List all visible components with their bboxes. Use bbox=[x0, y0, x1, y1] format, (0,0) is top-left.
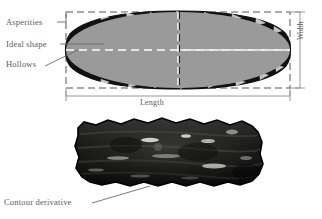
leader-line-contour-derivative bbox=[92, 186, 150, 203]
leader-line-asperities bbox=[57, 14, 66, 22]
label-ideal-shape: Ideal shape bbox=[6, 40, 47, 49]
figure-root: Asperities Ideal shape Hollows Length Wi… bbox=[0, 0, 322, 219]
grain-photograph bbox=[70, 115, 270, 191]
label-hollows: Hollows bbox=[6, 60, 36, 69]
label-width: Width bbox=[296, 0, 305, 40]
length-dimension bbox=[66, 88, 290, 101]
label-asperities: Asperities bbox=[6, 18, 42, 27]
label-contour-derivative: Contour derivative bbox=[4, 198, 72, 207]
label-length: Length bbox=[140, 99, 164, 107]
figure-canvas bbox=[0, 0, 322, 219]
